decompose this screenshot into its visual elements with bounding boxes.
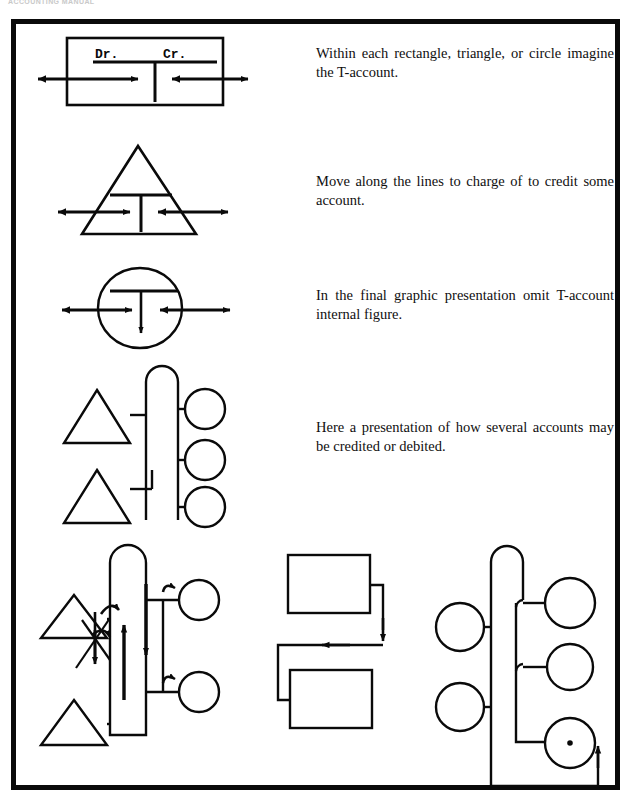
page-header-note: ACCOUNTING MANUAL: [8, 0, 95, 5]
caption-rectangle-triangle-circle: Within each rectangle, triangle, or circ…: [316, 44, 614, 83]
caption-several-accounts: Here a presentation of how several accou…: [316, 418, 614, 457]
caption-move-along-lines: Move along the lines to charge of to cre…: [316, 172, 614, 211]
page-root: ACCOUNTING MANUAL: [0, 0, 632, 798]
caption-omit-internal-figure: In the final graphic presentation omit T…: [316, 286, 614, 325]
figure-frame: [11, 19, 620, 790]
